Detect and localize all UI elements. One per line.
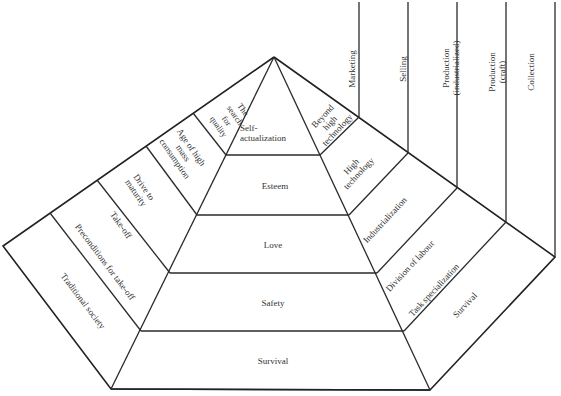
level-safety: Safety (238, 298, 308, 308)
pyramid-diagram (0, 0, 561, 396)
column-production-craft: Production (craft) (487, 27, 507, 117)
level-esteem: Esteem (240, 181, 310, 191)
column-production-industrialized: Production (industrialized) (441, 13, 461, 123)
column-selling: Selling (398, 29, 408, 109)
inner-left-edge (111, 57, 274, 389)
level-divider (111, 389, 430, 390)
column-marketing: Marketing (347, 29, 357, 109)
level-love: Love (238, 240, 308, 250)
column-collection: Collection (526, 32, 536, 112)
outer-outline (3, 57, 555, 390)
level-survival: Survival (238, 356, 308, 366)
